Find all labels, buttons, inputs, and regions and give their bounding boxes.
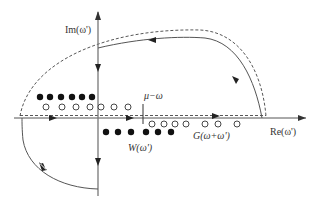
- filled-poles-lower: [103, 129, 174, 135]
- real-axis-arrow-icon: [298, 115, 306, 121]
- mu-minus-omega-label: μ−ω: [143, 90, 163, 101]
- contour-diagram: μ−ω Im(ω') Re(ω') W(ω') G(ω+ω'): [0, 0, 318, 200]
- arrow-up-icon: [232, 76, 239, 84]
- arrow-down-icon: [95, 64, 101, 72]
- real-axis-label: Re(ω'): [270, 126, 296, 138]
- open-poles-lower: [149, 121, 240, 127]
- lower-left-solid-contour: [22, 118, 98, 189]
- g-poles-label: G(ω+ω'): [193, 130, 231, 142]
- filled-poles-upper: [37, 94, 95, 100]
- w-poles-label: W(ω'): [128, 142, 153, 154]
- arrow-left-icon: [148, 37, 156, 43]
- dashed-contour-arc: [20, 30, 266, 116]
- arrow-down-icon: [95, 158, 101, 166]
- imag-axis-arrow-icon: [95, 11, 101, 20]
- open-poles-upper: [43, 104, 131, 110]
- upper-solid-contour: [98, 37, 262, 118]
- imag-axis-label: Im(ω'): [65, 24, 91, 36]
